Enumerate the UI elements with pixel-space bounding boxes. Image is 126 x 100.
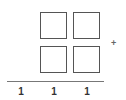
result-digit-tens: 1 — [49, 86, 59, 97]
digit-box-row1-ones[interactable] — [73, 12, 100, 39]
plus-sign: + — [111, 39, 116, 48]
digit-box-row1-tens[interactable] — [40, 12, 67, 39]
digit-box-row2-tens[interactable] — [40, 46, 67, 73]
sum-line — [7, 81, 104, 82]
result-digit-ones: 1 — [82, 86, 92, 97]
result-digit-hundreds: 1 — [16, 86, 26, 97]
digit-box-row2-ones[interactable] — [73, 46, 100, 73]
